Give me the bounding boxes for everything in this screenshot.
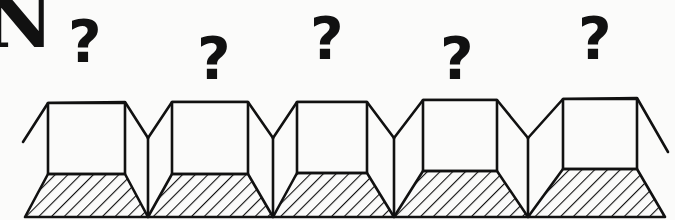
keycap-row-drawing [0,0,675,220]
